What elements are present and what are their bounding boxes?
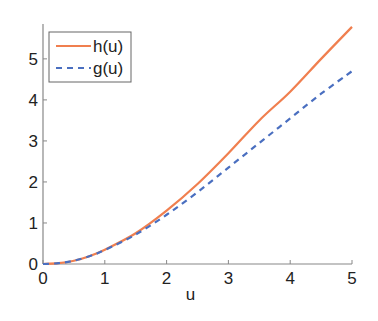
line-chart: 012345012345 h(u)g(u) u bbox=[0, 0, 378, 321]
legend: h(u)g(u) bbox=[49, 32, 131, 82]
legend-label: h(u) bbox=[93, 37, 123, 56]
y-tick-label: 1 bbox=[29, 214, 38, 233]
series-line-g bbox=[43, 71, 352, 264]
y-tick-label: 5 bbox=[29, 50, 38, 69]
x-axis-label: u bbox=[186, 285, 195, 304]
x-tick-label: 1 bbox=[100, 269, 109, 288]
x-tick-label: 4 bbox=[285, 269, 294, 288]
y-tick-label: 4 bbox=[29, 91, 38, 110]
x-tick-label: 0 bbox=[38, 269, 47, 288]
x-tick-label: 2 bbox=[162, 269, 171, 288]
legend-label: g(u) bbox=[93, 59, 123, 78]
x-tick-label: 3 bbox=[224, 269, 233, 288]
y-tick-label: 0 bbox=[29, 255, 38, 274]
x-tick-label: 5 bbox=[347, 269, 356, 288]
y-tick-label: 2 bbox=[29, 173, 38, 192]
y-tick-label: 3 bbox=[29, 132, 38, 151]
